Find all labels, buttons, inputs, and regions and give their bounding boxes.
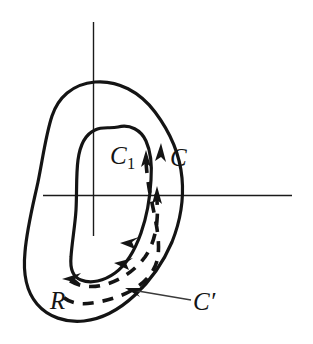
label-inner-contour-base: C: [110, 142, 127, 169]
arrowhead-up-outer: [155, 143, 166, 162]
label-inner-contour-subscript: 1: [127, 154, 135, 173]
label-outer-contour: C: [170, 145, 187, 170]
arrowhead-diag-lower: [114, 258, 133, 270]
label-deformed-contour: C′: [193, 289, 215, 314]
figure-canvas: C1 C R C′: [0, 0, 313, 344]
label-deformed-contour-prime: ′: [210, 288, 215, 315]
label-region: R: [50, 288, 65, 313]
figure-drawing: [0, 0, 313, 344]
label-inner-contour: C1: [110, 143, 135, 168]
leader-line-segment: [132, 290, 191, 300]
label-deformed-contour-base: C: [193, 288, 210, 315]
